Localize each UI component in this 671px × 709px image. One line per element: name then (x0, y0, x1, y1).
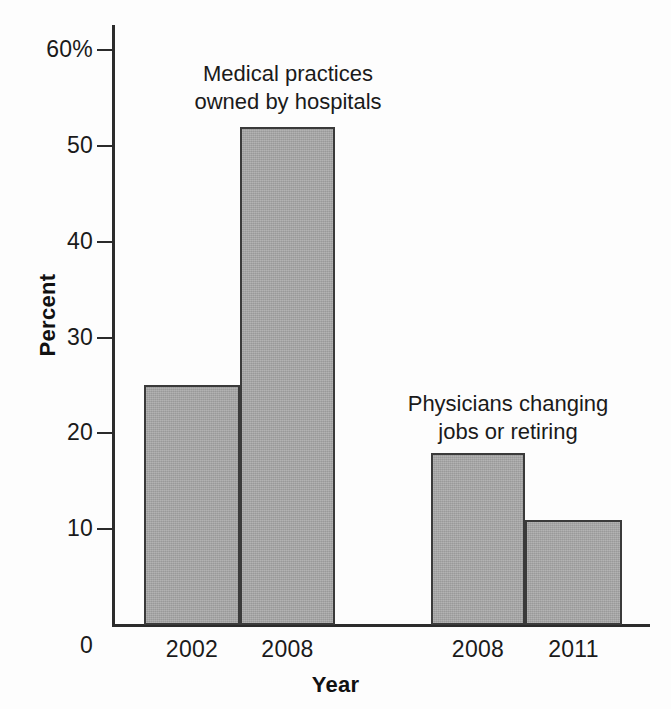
y-axis-tick-mark (97, 528, 113, 530)
y-axis-tick-label: 40 (7, 230, 93, 253)
y-axis-tick-mark (97, 49, 113, 51)
bar (525, 520, 622, 625)
y-axis-tick-label: 50 (7, 134, 93, 157)
y-axis-tick-mark (97, 145, 113, 147)
y-axis-tick-label: 10 (7, 517, 93, 540)
x-axis-tick-label: 2008 (220, 636, 355, 662)
y-axis-tick-label: 60% (7, 38, 93, 61)
y-axis-tick-label: 20 (7, 421, 93, 444)
x-axis-tick-label: 2011 (505, 636, 642, 662)
y-axis-line (112, 25, 115, 627)
x-axis-title: Year (0, 672, 671, 698)
y-axis-tick-label: 0 (7, 634, 93, 657)
annotation-medical-practices: Medical practices owned by hospitals (138, 60, 438, 116)
y-axis-title-holder: Percent (0, 255, 108, 375)
annotation-physicians-changing: Physicians changing jobs or retiring (372, 390, 644, 446)
y-axis-title: Percent (0, 255, 108, 375)
y-axis-tick-mark (97, 241, 113, 243)
bar (431, 453, 525, 626)
bar-chart: 0102030405060% Percent 2002200820082011 … (0, 0, 671, 709)
bar (144, 385, 240, 625)
bar (240, 127, 335, 625)
y-axis-tick-mark (97, 432, 113, 434)
